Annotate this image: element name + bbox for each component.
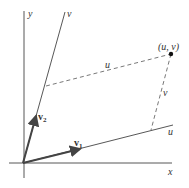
dashed-u-label: u [105, 59, 110, 70]
vector-v1-arrow [23, 149, 80, 163]
point-label: (u, v) [158, 41, 180, 53]
v-axis-label: v [67, 8, 72, 19]
coordinate-diagram: y v u x (u, v) u v v1 v2 [0, 0, 189, 188]
u-axis-label: u [168, 126, 173, 137]
y-axis-label: y [27, 8, 33, 19]
vector-v2-arrow [23, 116, 36, 163]
dashed-line-v [151, 54, 171, 130]
dashed-v-label: v [163, 87, 168, 98]
x-axis-label: x [167, 166, 173, 177]
point-uv [169, 52, 173, 56]
vector-v1-label: v1 [74, 137, 83, 150]
vector-v2-label: v2 [38, 111, 47, 124]
